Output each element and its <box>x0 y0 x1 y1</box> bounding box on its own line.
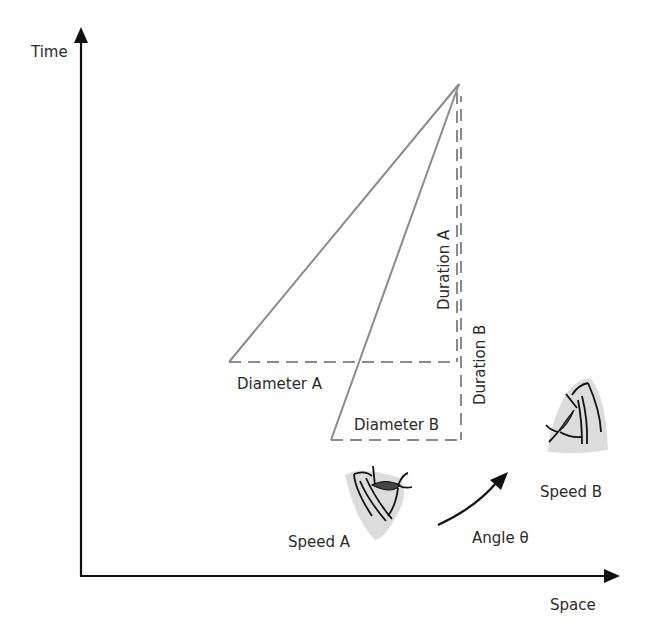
angle-label: Angle θ <box>472 529 529 547</box>
space-time-diagram: Time Space Diameter A Diameter B Duratio… <box>0 0 658 639</box>
curved-arrow-icon <box>438 472 508 525</box>
duration-a-label: Duration A <box>435 229 453 310</box>
diameter-a-label: Diameter A <box>237 375 323 393</box>
x-axis-arrowhead-icon <box>604 569 620 583</box>
axes <box>74 27 620 583</box>
speed-b-label: Speed B <box>540 483 602 501</box>
eye-speed-a-icon <box>345 466 412 540</box>
eye-speed-b-icon <box>546 378 608 453</box>
y-axis-label: Time <box>30 43 68 61</box>
duration-b-label: Duration B <box>471 325 489 405</box>
hypotenuse-a <box>229 84 459 362</box>
diameter-b-label: Diameter B <box>354 416 439 434</box>
y-axis-arrowhead-icon <box>74 27 88 43</box>
x-axis-label: Space <box>550 596 596 614</box>
speed-a-label: Speed A <box>288 533 351 551</box>
triangle-a <box>229 84 459 362</box>
